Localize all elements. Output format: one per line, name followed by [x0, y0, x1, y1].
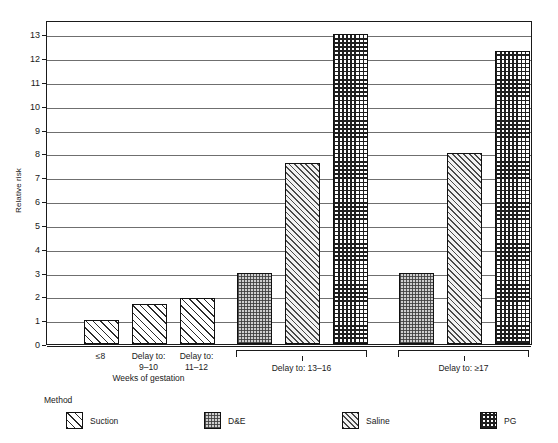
bar-group-delay-17-pg[interactable]: [495, 51, 530, 344]
legend-label: D&E: [228, 416, 245, 426]
legend-label: PG: [504, 416, 516, 426]
chart-figure: Relative risk 012345678910111213 ≤8Delay…: [0, 0, 558, 443]
legend-item-d-e[interactable]: D&E: [204, 412, 245, 429]
y-axis-title: Relative risk: [14, 131, 23, 251]
bar-group-delay-13-16-pg[interactable]: [333, 34, 368, 344]
y-tick-label-5: 5: [4, 221, 40, 230]
y-tick-label-9: 9: [4, 126, 40, 135]
y-tick-label-11: 11: [4, 78, 40, 87]
y-tick-label-0: 0: [4, 341, 40, 350]
bar-series-container: [47, 22, 531, 344]
y-tick-label-1: 1: [4, 317, 40, 326]
bar-group-delay-17-saline[interactable]: [447, 153, 482, 344]
y-tick-label-4: 4: [4, 245, 40, 254]
plot-area: [46, 21, 532, 345]
legend-item-saline[interactable]: Saline: [342, 412, 390, 429]
y-tick-label-10: 10: [4, 102, 40, 111]
legend-label: Saline: [366, 416, 390, 426]
y-tick-label-8: 8: [4, 150, 40, 159]
x-group-bracket-group-delay-13-16: [236, 350, 367, 357]
legend-label: Suction: [90, 416, 118, 426]
bar-group-delay-13-16-saline[interactable]: [285, 163, 320, 344]
legend-swatch-saline-icon: [342, 412, 359, 429]
legend-swatch-d-e-icon: [204, 412, 221, 429]
x-group-bracket-group-delay-17: [398, 350, 529, 357]
bar-group-delay-13-16-d-e[interactable]: [237, 273, 272, 344]
y-tick-label-12: 12: [4, 55, 40, 64]
chart-legend: Method SuctionD&ESalinePG: [44, 395, 554, 441]
legend-swatch-suction-icon: [66, 412, 83, 429]
legend-title: Method: [44, 395, 72, 405]
bar-group-delay-17-d-e[interactable]: [399, 273, 434, 344]
bar-group-weeks-suction[interactable]: [180, 298, 215, 344]
bar-group-weeks-suction[interactable]: [84, 320, 119, 344]
y-tick-label-2: 2: [4, 293, 40, 302]
legend-swatch-pg-icon: [480, 412, 497, 429]
y-tick-label-6: 6: [4, 198, 40, 207]
x-group-label-group-delay-17: Delay to: ≥17: [368, 363, 558, 374]
legend-item-pg[interactable]: PG: [480, 412, 516, 429]
x-axis-area: ≤8Delay to: 9–10Delay to: 11–12Delay to:…: [46, 345, 532, 395]
bar-group-weeks-suction[interactable]: [132, 304, 167, 345]
legend-item-suction[interactable]: Suction: [66, 412, 118, 429]
x-axis-title: Weeks of gestation: [53, 373, 244, 383]
y-tick-label-3: 3: [4, 269, 40, 278]
y-tick-label-13: 13: [4, 31, 40, 40]
y-tick-label-7: 7: [4, 174, 40, 183]
